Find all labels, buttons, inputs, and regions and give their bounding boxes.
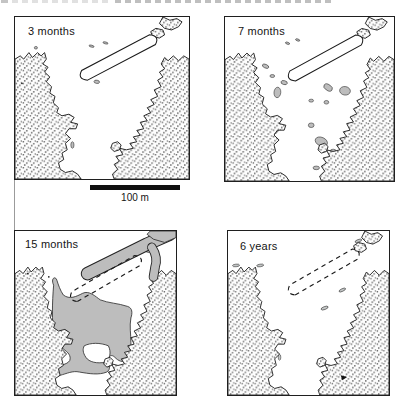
- landmasses: [225, 17, 394, 181]
- cove-map-15-months: [15, 231, 176, 395]
- oil-patch: [339, 86, 351, 96]
- oil-patch: [285, 42, 290, 45]
- panel-label: 15 months: [25, 238, 78, 250]
- land-right: [112, 56, 189, 179]
- land-left: [15, 53, 81, 179]
- panel-label: 3 months: [28, 25, 75, 37]
- corner-island: [365, 17, 387, 30]
- panel-label: 7 months: [238, 25, 285, 37]
- panel-7-months: 7 months: [224, 16, 395, 182]
- oil-patch: [103, 41, 109, 44]
- oil-patch: [281, 80, 288, 85]
- land-right: [320, 56, 394, 181]
- land-left: [228, 267, 289, 395]
- cropped-page-number: [1, 0, 8, 3]
- cove-island: [318, 143, 328, 153]
- shipwreck-outline: [288, 35, 362, 81]
- cropped-running-head: [115, 0, 333, 3]
- islet: [354, 242, 367, 252]
- landmasses: [15, 17, 189, 179]
- cove-map-3-months: [15, 17, 189, 179]
- oil-patch: [232, 264, 239, 267]
- oil-patch: [324, 100, 329, 104]
- scanned-figure-page: 3 months: [0, 0, 404, 410]
- oil-patch: [89, 45, 95, 48]
- coast-speck: [48, 276, 50, 278]
- land-left: [225, 53, 289, 181]
- oil-patch: [339, 287, 347, 292]
- landmasses: [228, 231, 389, 395]
- panel-label: 6 years: [240, 240, 277, 252]
- scale-bar-label: 100 m: [90, 192, 180, 203]
- cove-island: [317, 357, 327, 367]
- oil-patch: [94, 80, 100, 84]
- cove-island: [111, 142, 121, 152]
- panel-6-years: 6 years: [227, 230, 390, 396]
- corner-island: [362, 231, 383, 244]
- cropped-running-head: [12, 0, 110, 3]
- oil-patch: [322, 82, 333, 92]
- shipwreck-outline: [80, 35, 157, 80]
- oil-patch: [295, 38, 300, 41]
- shipwreck-dashed-outline: [288, 249, 359, 295]
- figure-frame-line: [14, 179, 15, 231]
- oil-patch: [309, 99, 314, 102]
- scale-bar: [90, 185, 180, 190]
- coast-speck: [27, 273, 29, 275]
- oil-patch: [71, 142, 74, 148]
- panel-3-months: 3 months: [14, 16, 190, 180]
- oil-patch: [308, 123, 314, 128]
- oil-patch: [270, 75, 275, 78]
- cove-map-7-months: [225, 17, 394, 181]
- land-right: [318, 270, 389, 395]
- oil-patch: [257, 264, 264, 268]
- cove-island: [104, 357, 114, 367]
- oil-patch: [313, 166, 319, 170]
- land-left: [15, 267, 76, 395]
- oil-patch: [34, 46, 37, 49]
- cove-map-6-years: [228, 231, 389, 395]
- coast-speck: [21, 83, 23, 85]
- oil-patch: [262, 63, 270, 69]
- oil-patch: [274, 87, 282, 98]
- panel-15-months: 15 months: [14, 230, 177, 396]
- oil-patch: [321, 305, 329, 310]
- corner-island: [159, 17, 182, 30]
